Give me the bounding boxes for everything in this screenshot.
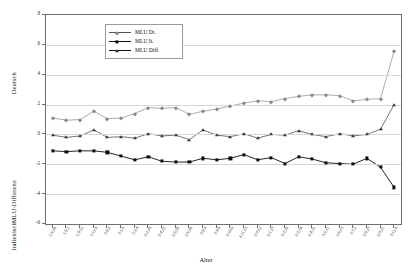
legend-item-mlu-dt[interactable]: MLU Dt. [109, 28, 178, 37]
data-point [283, 162, 286, 165]
gridline-0 [46, 134, 401, 135]
y-axis-label-differenz: MLU-Differenz [10, 180, 17, 223]
data-point [106, 151, 109, 154]
data-point [392, 103, 396, 106]
data-point [65, 150, 68, 153]
data-point [105, 136, 109, 139]
legend-line-mlu-diff [109, 50, 131, 51]
data-point [351, 134, 355, 137]
data-point [297, 155, 300, 158]
data-point [379, 128, 383, 131]
data-point [311, 157, 314, 160]
data-point [174, 134, 178, 137]
data-point [92, 128, 96, 131]
data-point [133, 112, 137, 116]
data-point [187, 138, 191, 141]
y-axis-label-italienisch: Italienisch [10, 222, 17, 251]
data-point [338, 162, 341, 165]
legend-line-mlu-dt [109, 32, 131, 33]
gridline-6 [46, 45, 401, 46]
y-tick-label--6: -6 [0, 220, 40, 225]
data-point [188, 160, 191, 163]
data-point [270, 156, 273, 159]
legend-item-mlu-it[interactable]: MLU It. [109, 37, 178, 46]
data-point [133, 137, 137, 140]
x-axis-title: Alter [0, 256, 412, 263]
series-line-mlu-dt- [53, 51, 394, 120]
data-point [379, 166, 382, 169]
data-point [242, 132, 246, 135]
data-point [365, 133, 369, 136]
gridline-4 [46, 75, 401, 76]
diamond-marker-icon [115, 31, 119, 35]
data-point [283, 134, 287, 137]
legend-label-mlu-dt: MLU Dt. [135, 30, 156, 36]
gridline--2 [46, 164, 401, 165]
gridline--4 [46, 194, 401, 195]
y-tick-label-2: 2 [0, 101, 40, 106]
data-point [324, 161, 327, 164]
data-point [365, 157, 368, 160]
y-tick-label--4: -4 [0, 191, 40, 196]
data-point [78, 134, 82, 137]
data-point [215, 158, 218, 161]
data-point [242, 153, 245, 156]
legend-label-mlu-it: MLU It. [135, 39, 154, 45]
data-point [201, 157, 204, 160]
data-point [120, 154, 123, 157]
data-point [229, 157, 232, 160]
data-point [256, 158, 259, 161]
y-tick-label-4: 4 [0, 71, 40, 76]
legend: MLU Dt. MLU It. MLU Diff [105, 24, 183, 59]
data-point [174, 160, 177, 163]
data-point [256, 137, 260, 140]
data-point [379, 97, 383, 101]
series-line-mlu-it- [53, 151, 394, 188]
plot-area: MLU Dt. MLU It. MLU Diff [45, 14, 402, 225]
data-point [352, 163, 355, 166]
data-point [160, 134, 164, 137]
data-point [79, 149, 82, 152]
data-point [146, 132, 150, 135]
data-point [324, 135, 328, 138]
data-point [269, 133, 273, 136]
y-tick-label-8: 8 [0, 11, 40, 16]
data-point [92, 149, 95, 152]
data-point [119, 135, 123, 138]
data-point [174, 106, 178, 110]
data-point [51, 149, 54, 152]
data-point [338, 132, 342, 135]
data-point [133, 158, 136, 161]
y-tick-label-0: 0 [0, 131, 40, 136]
data-point [310, 133, 314, 136]
data-point [147, 155, 150, 158]
data-point [160, 160, 163, 163]
triangle-marker-icon [115, 49, 119, 52]
chart-root: Deutsch MLU-Differenz Italienisch 86420-… [0, 0, 412, 274]
gridline-2 [46, 105, 401, 106]
data-point [215, 134, 219, 137]
data-point [393, 186, 396, 189]
x-axis-tick-labels: 1;6;261;8;11;9;121;11;02;0;22;1;02;2;42;… [45, 226, 402, 260]
y-tick-label-6: 6 [0, 41, 40, 46]
data-point [64, 136, 68, 139]
data-point [297, 129, 301, 132]
data-point [338, 94, 342, 98]
legend-label-mlu-diff: MLU Diff [135, 48, 158, 54]
series-lines [46, 15, 401, 224]
square-marker-icon [115, 40, 118, 43]
data-point [201, 128, 205, 131]
data-point [51, 134, 55, 137]
y-tick-label--2: -2 [0, 161, 40, 166]
legend-line-mlu-it [109, 41, 131, 42]
data-point [228, 135, 232, 138]
legend-item-mlu-diff[interactable]: MLU Diff [109, 46, 178, 55]
